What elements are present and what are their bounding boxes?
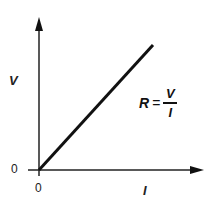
resistance-formula: R = V I (139, 86, 177, 120)
y-origin-label: 0 (11, 163, 18, 175)
formula-numerator: V (166, 86, 175, 101)
plot-area (0, 0, 215, 204)
x-axis-label: I (143, 184, 147, 197)
x-axis-arrow-icon (190, 166, 204, 174)
x-origin-label: 0 (35, 182, 42, 194)
fraction-bar (163, 102, 177, 104)
x-axis (28, 166, 204, 174)
y-axis-label: V (9, 74, 18, 87)
formula-equals: = (152, 95, 160, 111)
formula-fraction: V I (163, 86, 177, 120)
y-axis-arrow-icon (35, 17, 43, 31)
y-axis (35, 17, 43, 176)
data-line (39, 45, 153, 170)
formula-lhs: R (139, 95, 149, 111)
formula-denominator: I (169, 105, 173, 120)
